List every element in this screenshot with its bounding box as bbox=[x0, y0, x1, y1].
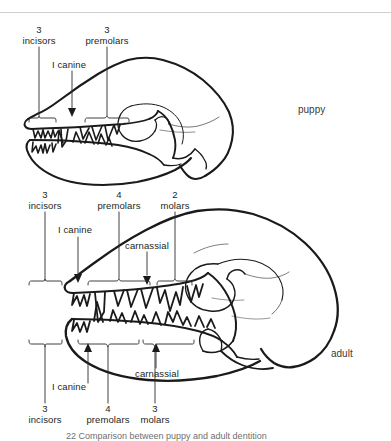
adult-upper-premolars-count: 4 bbox=[116, 189, 121, 200]
adult-lower-molars-label: molars bbox=[140, 414, 169, 425]
adult-lower-teeth bbox=[72, 302, 215, 332]
adult-upper-premolars-label: premolars bbox=[97, 200, 140, 211]
adult-lower-brackets bbox=[29, 340, 194, 347]
puppy-premolars-label: premolars bbox=[85, 35, 128, 46]
figure-root: 3 incisors 3 premolars I canine puppy 3 … bbox=[0, 0, 391, 441]
puppy-incisors-count: 3 bbox=[36, 24, 41, 35]
adult-side-label: adult bbox=[331, 348, 353, 359]
adult-lower-canine-label: I canine bbox=[52, 381, 86, 392]
puppy-brackets bbox=[29, 116, 129, 122]
figure-caption: 22 Comparison between puppy and adult de… bbox=[66, 431, 267, 441]
puppy-premolars-count: 3 bbox=[104, 24, 109, 35]
adult-upper-incisors-count: 3 bbox=[42, 189, 47, 200]
adult-lower-incisors-label: incisors bbox=[28, 414, 61, 425]
adult-lower-incisors-count: 3 bbox=[42, 403, 47, 414]
adult-upper-molars-count: 2 bbox=[172, 189, 177, 200]
adult-upper-molars-label: molars bbox=[160, 200, 189, 211]
adult-lower-molars-count: 3 bbox=[152, 403, 157, 414]
adult-lower-premolars-count: 4 bbox=[105, 403, 110, 414]
adult-upper-brackets bbox=[29, 279, 192, 285]
adult-lower-carnassial-label: carnassial bbox=[135, 368, 179, 379]
puppy-canine-label: I canine bbox=[52, 59, 86, 70]
adult-upper-carnassial-label: carnassial bbox=[125, 240, 169, 251]
adult-upper-incisors-label: incisors bbox=[28, 200, 61, 211]
puppy-canine-arrowhead bbox=[68, 108, 76, 117]
adult-lower-premolars-label: premolars bbox=[86, 414, 129, 425]
puppy-side-label: puppy bbox=[298, 104, 325, 115]
puppy-incisors-label: incisors bbox=[22, 35, 55, 46]
adult-upper-canine-label: I canine bbox=[58, 224, 92, 235]
puppy-leaders bbox=[39, 47, 107, 116]
